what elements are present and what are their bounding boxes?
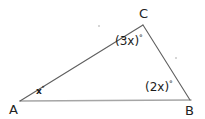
angle-label-a: x° (36, 86, 45, 96)
degree-symbol-icon: ° (42, 85, 45, 91)
triangle-diagram (0, 0, 205, 119)
angle-label-b: (2x)° (145, 80, 173, 93)
artifact-speck (175, 57, 177, 59)
angle-label-c: (3x)° (115, 34, 143, 47)
angle-c-expression: (3x) (115, 34, 139, 48)
angle-b-expression: (2x) (145, 80, 169, 94)
vertex-label-c: C (139, 7, 148, 20)
artifact-speck (98, 25, 100, 27)
vertex-label-a: A (9, 103, 18, 116)
vertex-label-b: B (185, 104, 194, 117)
degree-symbol-icon: ° (169, 79, 173, 88)
side-AB (20, 100, 191, 101)
degree-symbol-icon: ° (139, 33, 143, 42)
